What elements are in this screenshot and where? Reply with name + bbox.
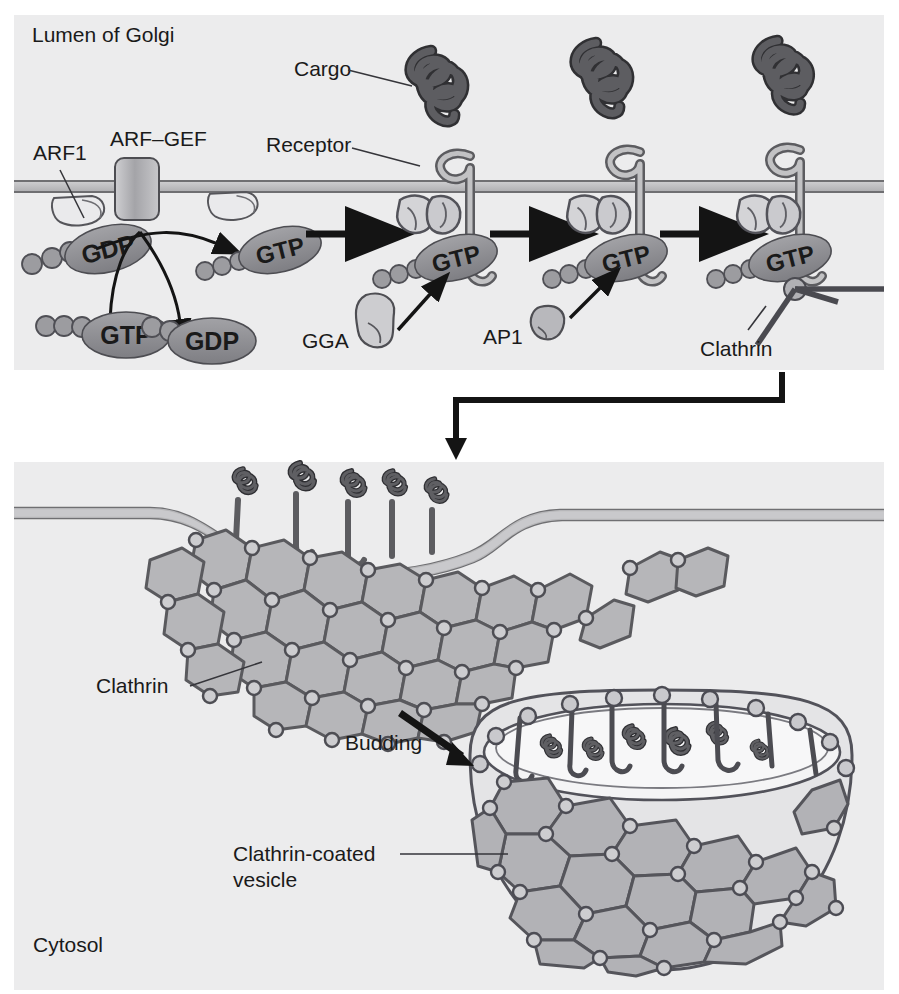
top-panel: GDP GTP GDP: [14, 15, 884, 370]
arf1-label: ARF1: [33, 141, 87, 164]
clathrin-label-top: Clathrin: [700, 337, 772, 360]
ap1-adaptor-free: [531, 306, 565, 339]
clathrin-label-bottom: Clathrin: [96, 674, 168, 697]
clathrin-coated-vesicle-label-line1: Clathrin-coated: [233, 842, 375, 865]
bottom-panel: Clathrin Budding Clathrin-coated vesicle…: [14, 462, 884, 990]
receptor-label: Receptor: [266, 133, 351, 156]
gga-adaptor-free: [356, 294, 394, 348]
clathrin-coated-vesicle-label-line2: vesicle: [233, 868, 297, 891]
cargo-label: Cargo: [294, 57, 351, 80]
figure-canvas: GDP GTP GDP: [0, 0, 899, 994]
free-gdp-label: GDP: [185, 327, 239, 355]
arf-gef-label: ARF–GEF: [110, 127, 207, 150]
cytosol-label: Cytosol: [33, 933, 103, 956]
arf-gef-protein: [115, 158, 159, 220]
gga-label: GGA: [302, 329, 349, 352]
lumen-of-golgi-label: Lumen of Golgi: [32, 23, 174, 46]
budding-label: Budding: [345, 731, 422, 754]
ap1-label: AP1: [483, 325, 523, 348]
